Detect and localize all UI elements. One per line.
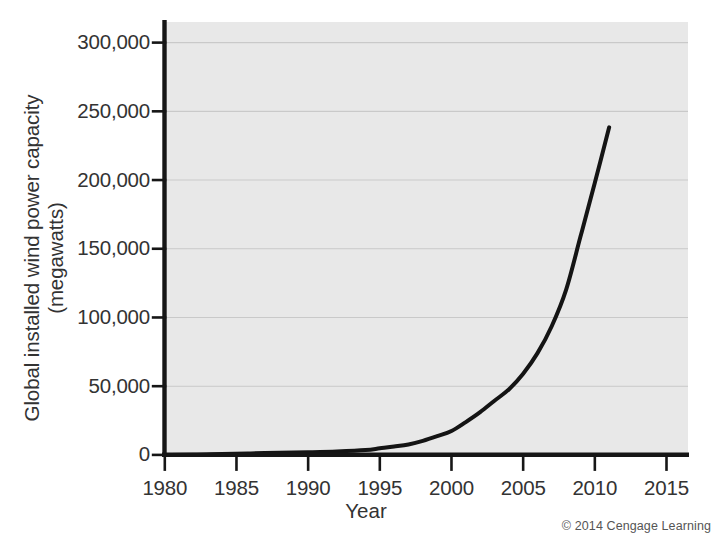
- x-tick-label-group: 1980 1985 1990 1995 2000 2005 2010 2015: [0, 0, 721, 556]
- x-axis-title: Year: [321, 500, 411, 522]
- copyright-credit: © 2014 Cengage Learning: [562, 519, 711, 533]
- x-tick-label-2015: 2015: [622, 478, 712, 499]
- wind-power-capacity-chart: Global installed wind power capacity (me…: [0, 0, 721, 556]
